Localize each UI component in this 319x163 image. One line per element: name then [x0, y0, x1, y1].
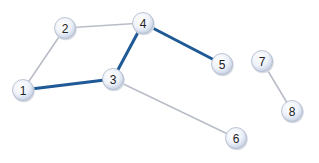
- node-label: 8: [289, 105, 296, 119]
- node-6: 6: [226, 128, 248, 151]
- node-label: 4: [140, 17, 147, 31]
- node-1: 1: [13, 80, 35, 103]
- node-label: 3: [110, 73, 117, 87]
- edge-3-6: [113, 79, 236, 138]
- node-label: 7: [259, 55, 266, 69]
- edge-1-3: [23, 79, 113, 90]
- graph-diagram: 12345678: [0, 0, 319, 163]
- node-2: 2: [55, 18, 77, 41]
- edge-4-5: [143, 23, 222, 64]
- node-label: 5: [219, 58, 226, 72]
- edge-2-4: [65, 23, 143, 28]
- edges-layer: [23, 23, 292, 138]
- nodes-layer: 12345678: [13, 13, 304, 151]
- node-5: 5: [212, 54, 234, 77]
- node-7: 7: [252, 51, 274, 74]
- node-4: 4: [133, 13, 155, 36]
- node-8: 8: [282, 101, 304, 124]
- node-label: 1: [20, 84, 27, 98]
- node-label: 6: [233, 132, 240, 146]
- node-3: 3: [103, 69, 125, 92]
- node-label: 2: [62, 22, 69, 36]
